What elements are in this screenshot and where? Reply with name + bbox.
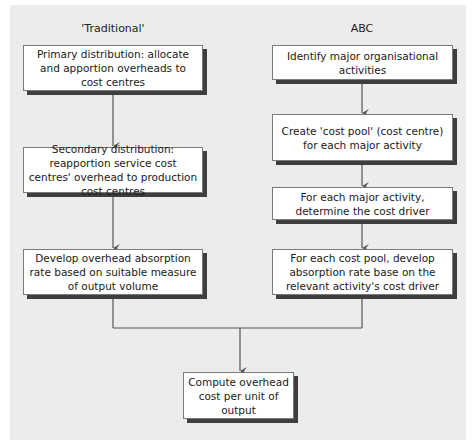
abc-step-4-text: For each cost pool, develop absorption r… — [277, 251, 448, 293]
final-step-text: Compute overhead cost per unit of output — [188, 375, 289, 417]
abc-step-4-box: For each cost pool, develop absorption r… — [272, 249, 453, 295]
abc-step-1-box: Identify major organisational activities — [272, 45, 453, 80]
abc-step-3-text: For each major activity, determine the c… — [277, 190, 448, 218]
traditional-step-2-box: Secondary distribution: reapportion serv… — [23, 147, 203, 193]
abc-step-1-text: Identify major organisational activities — [277, 49, 448, 77]
abc-step-3-box: For each major activity, determine the c… — [272, 187, 453, 220]
final-step-box: Compute overhead cost per unit of output — [183, 372, 294, 419]
traditional-step-3-text: Develop overhead absorption rate based o… — [28, 251, 198, 293]
traditional-step-3-box: Develop overhead absorption rate based o… — [23, 249, 203, 295]
traditional-step-2-text: Secondary distribution: reapportion serv… — [28, 142, 198, 198]
traditional-step-1-text: Primary distribution: allocate and appor… — [28, 47, 198, 89]
abc-step-2-box: Create 'cost pool' (cost centre) for eac… — [272, 114, 453, 161]
abc-column-label: ABC — [272, 22, 452, 35]
traditional-step-1-box: Primary distribution: allocate and appor… — [23, 45, 203, 91]
abc-step-2-text: Create 'cost pool' (cost centre) for eac… — [277, 124, 448, 152]
traditional-column-label: 'Traditional' — [23, 22, 203, 35]
